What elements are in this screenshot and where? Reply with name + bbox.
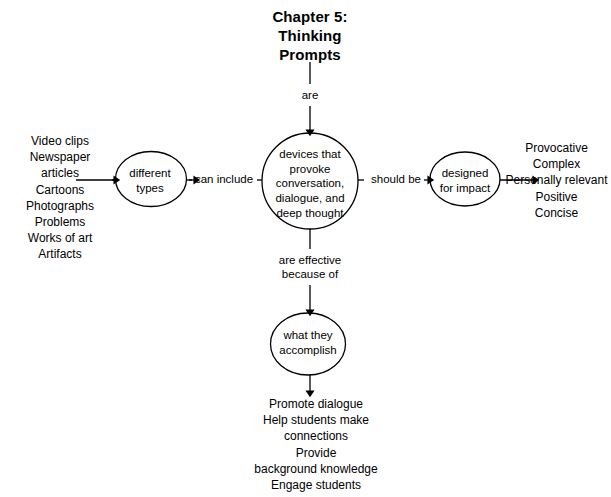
node-label-different-types: different types <box>118 166 182 195</box>
list-accomplishments: Promote dialogue Help students make conn… <box>228 396 404 493</box>
list-impact-qualities: Provocative Complex Personally relevant … <box>505 140 608 221</box>
list-different-types-items: Video clips Newspaper articles Cartoons … <box>10 133 110 263</box>
node-label-designed-for-impact: designed for impact <box>432 166 498 195</box>
edge-label-can-include: can include <box>186 172 262 186</box>
page-title: Chapter 5: Thinking Prompts <box>205 8 415 65</box>
edge-label-are: are <box>270 88 350 102</box>
node-label-core: devices that provoke conversation, dialo… <box>263 147 357 221</box>
edge-label-are-effective-because-of: are effective because of <box>258 253 362 281</box>
concept-map-canvas: Chapter 5: Thinking Prompts are can incl… <box>0 0 611 497</box>
edge-label-should-be: should be <box>360 172 432 186</box>
node-label-what-they-accomplish: what they accomplish <box>272 328 344 357</box>
